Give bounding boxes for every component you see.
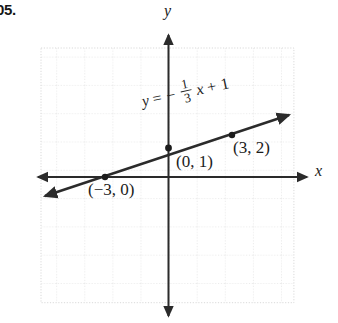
coordinate-plane-svg — [0, 0, 338, 323]
point-label-y-intercept: (0, 1) — [176, 152, 213, 172]
equation-minus-sign: − — [165, 85, 178, 104]
y-axis-label: y — [164, 2, 171, 20]
x-axis-label: x — [315, 162, 322, 180]
point-label-3-2: (3, 2) — [233, 138, 270, 158]
equation-fraction: 1 3 — [178, 76, 194, 105]
point-label-x-intercept: (−3, 0) — [88, 180, 134, 200]
fraction-denominator: 3 — [181, 89, 194, 105]
point-marker-y-intercept — [165, 145, 172, 152]
equation-plus-sign: + — [205, 77, 218, 96]
graph-figure: 05. y x y = − — [0, 0, 338, 323]
equation-variable: x — [194, 79, 205, 98]
equation-equals: = — [151, 88, 164, 107]
